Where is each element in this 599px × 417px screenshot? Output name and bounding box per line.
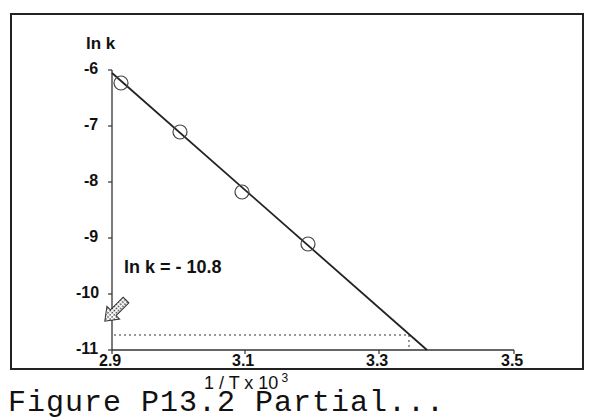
arrow-icon [98, 294, 132, 328]
x-tick-label: 2.9 [99, 352, 121, 370]
data-point [301, 237, 315, 251]
y-tick-label: -9 [84, 228, 98, 246]
data-point [114, 76, 128, 90]
y-tick-label: -6 [84, 60, 98, 78]
x-tick-label: 3.3 [366, 352, 388, 370]
y-tick-label: -10 [76, 284, 99, 302]
x-tick-label: 3.5 [501, 352, 523, 370]
fit-line [112, 73, 427, 350]
y-axis-label: ln k [86, 34, 115, 54]
x-tick-label: 3.1 [232, 352, 254, 370]
y-tick-label: -11 [76, 340, 98, 358]
figure-caption: Figure P13.2 Partial... [8, 386, 445, 417]
y-tick-label: -8 [84, 172, 98, 190]
x-axis-label-exponent: 3 [281, 371, 288, 385]
y-tick-label: -7 [84, 116, 98, 134]
annotation-label: ln k = - 10.8 [124, 257, 222, 278]
